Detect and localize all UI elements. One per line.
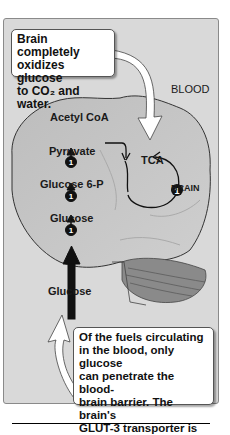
label-glucose-6p: Glucose 6-P [40,178,104,190]
callout-top: Brain completely oxidizes glucose to CO₂… [11,29,115,77]
svg-text:1: 1 [69,158,74,167]
label-brain: BRAIN [171,183,200,193]
label-acetyl-coa: Acetyl CoA [50,111,109,123]
divider-rule [12,423,210,424]
callout-bottom-line: can penetrate the blood- [79,370,208,396]
callout-top-line: Brain completely [17,33,109,59]
callout-bottom-line: brain barrier. The brain's [79,396,208,422]
callout-bottom: Of the fuels circulating in the blood, o… [73,327,214,405]
callout-bottom-line: Of the fuels circulating [79,331,208,344]
label-tca: TCA [141,154,164,166]
label-glucose-blood: Glucose [48,285,91,297]
label-glucose-brain: Glucose [50,212,93,224]
label-blood: BLOOD [171,83,210,95]
label-pyruvate: Pyruvate [49,145,95,157]
svg-text:1: 1 [69,226,74,235]
svg-text:1: 1 [69,192,74,201]
callout-top-line: to CO₂ and water. [17,85,109,111]
callout-top-line: oxidizes glucose [17,59,109,85]
callout-bottom-line: in the blood, only glucose [79,344,208,370]
